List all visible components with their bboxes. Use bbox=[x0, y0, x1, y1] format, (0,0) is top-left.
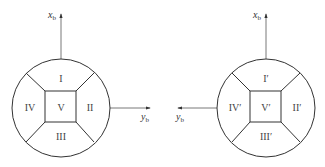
left-divider-bl bbox=[26, 122, 45, 142]
right-x-axis-label: xb bbox=[252, 9, 261, 22]
right-figure: xb yb I′ II′ III′ IV′ V′ bbox=[175, 9, 315, 157]
left-region-center: V bbox=[57, 102, 65, 113]
right-divider-br bbox=[281, 122, 300, 142]
right-region-top: I′ bbox=[263, 73, 269, 84]
left-region-top: I bbox=[59, 73, 62, 84]
left-divider-tr bbox=[76, 73, 94, 91]
left-region-bottom: III bbox=[56, 131, 66, 142]
left-figure: xb yb I II III IV V bbox=[12, 9, 150, 157]
left-region-left: IV bbox=[25, 102, 36, 113]
right-region-right: II′ bbox=[293, 102, 302, 113]
left-region-right: II bbox=[87, 102, 94, 113]
left-x-axis-label: xb bbox=[47, 9, 56, 22]
left-y-axis-label: yb bbox=[140, 111, 149, 124]
right-region-center: V′ bbox=[261, 102, 270, 113]
right-divider-tl bbox=[232, 73, 250, 91]
right-y-axis-label: yb bbox=[175, 111, 184, 124]
right-divider-bl bbox=[232, 122, 250, 142]
right-region-bottom: III′ bbox=[260, 131, 272, 142]
left-divider-tl bbox=[26, 73, 45, 91]
diagram-canvas: xb yb I II III IV V xb yb I′ II′ III′ IV… bbox=[0, 0, 325, 167]
right-region-left: IV′ bbox=[229, 102, 242, 113]
left-divider-br bbox=[76, 122, 94, 142]
right-divider-tr bbox=[281, 73, 300, 91]
